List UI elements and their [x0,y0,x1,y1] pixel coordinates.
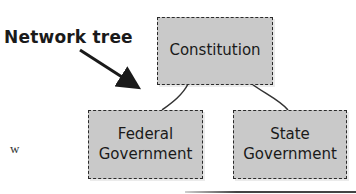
node-state-government: State Government [233,110,347,179]
node-constitution: Constitution [157,17,273,85]
side-text-fragment: w [10,141,19,157]
bottom-divider [185,191,356,193]
node-label: Constitution [169,41,260,61]
node-federal-government: Federal Government [88,110,203,179]
node-label-line2: Government [243,145,337,165]
annotation-arrow [80,50,136,86]
edge-root-state [252,84,288,110]
node-label-line1: State [243,125,337,145]
edge-root-federal [162,84,188,110]
node-label-line2: Government [99,145,193,165]
network-tree-label: Network tree [4,27,133,47]
node-label-line1: Federal [99,125,193,145]
